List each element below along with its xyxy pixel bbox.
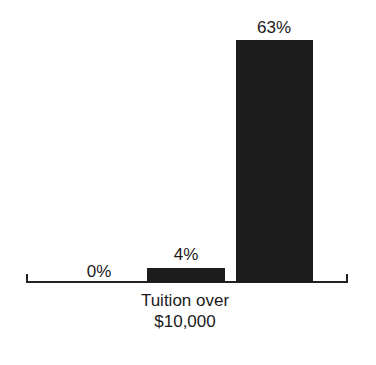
- bar-1-value-label: 0%: [59, 262, 139, 282]
- bar-2: [147, 268, 225, 282]
- x-axis-right-tick: [346, 274, 348, 283]
- bar-2-value-label: 4%: [146, 245, 226, 265]
- bar-3-value-label: 63%: [234, 18, 314, 38]
- bar-3: [236, 40, 313, 283]
- x-axis-label: Tuition over $10,000: [100, 290, 270, 332]
- x-axis-left-tick: [26, 274, 28, 283]
- x-axis-label-line-2: $10,000: [100, 311, 270, 332]
- x-axis-label-line-1: Tuition over: [100, 290, 270, 311]
